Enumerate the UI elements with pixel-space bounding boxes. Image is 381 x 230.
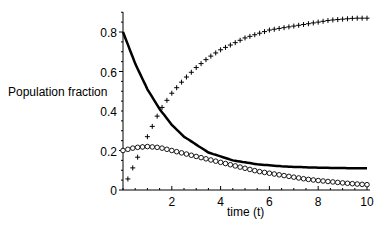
circle-marker [243, 166, 248, 171]
circle-marker [287, 174, 292, 179]
circle-marker [213, 159, 218, 164]
x-tick-label: 8 [315, 195, 322, 209]
circle-marker [301, 176, 306, 181]
circle-marker [331, 180, 336, 185]
circle-marker [189, 153, 194, 158]
circle-marker [199, 155, 204, 160]
plus-marker [311, 20, 316, 25]
plus-marker [150, 124, 155, 129]
plus-marker [286, 24, 291, 29]
plus-marker [155, 114, 160, 119]
plus-marker [325, 18, 330, 23]
circle-marker [345, 181, 350, 186]
plus-marker [272, 27, 277, 32]
plus-marker [345, 16, 350, 21]
circle-marker [252, 168, 257, 173]
circle-marker [140, 145, 145, 150]
circle-marker [277, 172, 282, 177]
y-tick-label: 0.8 [100, 26, 117, 40]
plus-marker [169, 91, 174, 96]
circle-marker [272, 172, 277, 177]
circle-marker [174, 149, 179, 154]
circle-marker [360, 182, 365, 187]
circle-marker [292, 175, 297, 180]
plus-marker [135, 155, 140, 160]
series-circle-markers [121, 144, 370, 187]
circle-marker [228, 162, 233, 167]
y-tick-label: 0 [110, 184, 117, 198]
plus-marker [130, 165, 135, 170]
plus-marker [247, 34, 252, 39]
plus-marker [194, 65, 199, 70]
plus-marker [179, 80, 184, 85]
plus-marker [233, 40, 238, 45]
circle-marker [238, 165, 243, 170]
y-tick-label: 0.6 [100, 66, 117, 80]
circle-marker [321, 179, 326, 184]
x-axis-label: time (t) [227, 205, 264, 219]
plus-marker [145, 134, 150, 139]
plus-marker [365, 16, 370, 21]
circle-marker [150, 145, 155, 150]
plus-marker [306, 21, 311, 26]
plus-marker [203, 57, 208, 62]
circle-marker [355, 182, 360, 187]
plus-marker [262, 29, 267, 34]
circle-marker [184, 152, 189, 157]
plus-marker [360, 16, 365, 21]
circle-marker [223, 161, 228, 166]
plus-marker [257, 31, 262, 36]
y-axis-label: Population fraction [8, 85, 107, 99]
x-tick-label: 10 [360, 195, 374, 209]
plus-marker [301, 22, 306, 27]
circle-marker [194, 154, 199, 159]
circle-marker [296, 176, 301, 181]
plus-marker [164, 98, 169, 103]
plus-marker [252, 32, 257, 37]
plus-marker [213, 50, 218, 55]
plus-marker [228, 43, 233, 48]
circle-marker [365, 182, 370, 187]
y-tick-label: 0.2 [100, 145, 117, 159]
plus-marker [291, 24, 296, 29]
chart: 24681000.20.40.60.8 Population fraction … [0, 0, 381, 230]
circle-marker [335, 180, 340, 185]
plus-marker [189, 70, 194, 75]
circle-marker [126, 147, 131, 152]
plus-marker [321, 19, 326, 24]
plus-marker [282, 25, 287, 30]
x-tick-label: 2 [168, 195, 175, 209]
circle-marker [121, 148, 126, 153]
circle-marker [218, 160, 223, 165]
x-tick-label: 4 [217, 195, 224, 209]
circle-marker [170, 148, 175, 153]
series-plus-markers [125, 16, 369, 182]
circle-marker [145, 144, 150, 149]
circle-marker [209, 158, 214, 163]
circle-marker [155, 145, 160, 150]
circle-marker [267, 171, 272, 176]
circle-marker [165, 147, 170, 152]
x-tick-label: 6 [266, 195, 273, 209]
plus-marker [330, 17, 335, 22]
plus-marker [218, 47, 223, 52]
plus-marker [174, 85, 179, 90]
circle-marker [179, 151, 184, 156]
circle-marker [316, 178, 321, 183]
plus-marker [243, 35, 248, 40]
circle-marker [262, 170, 267, 175]
circle-marker [306, 177, 311, 182]
plus-marker [267, 28, 272, 33]
plus-marker [350, 16, 355, 21]
plus-marker [335, 17, 340, 22]
circle-marker [326, 179, 331, 184]
circle-marker [311, 178, 316, 183]
plus-marker [238, 38, 243, 43]
circle-marker [350, 181, 355, 186]
circle-marker [248, 167, 253, 172]
plus-marker [316, 20, 321, 25]
circle-marker [204, 156, 209, 161]
circle-marker [160, 146, 165, 151]
plus-marker [277, 26, 282, 31]
circle-marker [282, 173, 287, 178]
